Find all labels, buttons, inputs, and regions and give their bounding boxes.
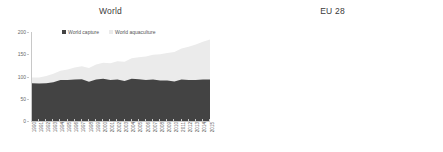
x-tick-label: 1994	[61, 122, 66, 132]
x-tick-mark	[138, 119, 139, 122]
x-tick-label: 1995	[68, 122, 73, 132]
x-tick-label: 2003	[125, 122, 130, 132]
x-tick-label: 2013	[196, 122, 201, 132]
x-tick-label: 2011	[182, 122, 187, 132]
x-tick-label: 2009	[168, 122, 173, 132]
chart-panel-eu28: EU 28 EU capture EU 28 aquaculture 02468…	[222, 0, 443, 152]
x-tick-label: 1992	[47, 122, 52, 132]
y-tick-label: 100	[18, 74, 26, 80]
x-tick-label: 2002	[118, 122, 123, 132]
x-tick-label: 2008	[161, 122, 166, 132]
x-tick-label: 1991	[40, 122, 45, 132]
x-tick-mark	[109, 119, 110, 122]
x-tick-mark	[145, 119, 146, 122]
x-tick-label: 2010	[175, 122, 180, 132]
y-tick-label: 150	[18, 51, 26, 57]
x-tick-mark	[67, 119, 68, 122]
y-tick-mark	[27, 77, 29, 78]
x-tick-mark	[181, 119, 182, 122]
x-tick-label: 2006	[147, 122, 152, 132]
chart-panel-world: World World capture World aquaculture 05…	[0, 0, 221, 152]
x-tick-label: 2004	[132, 122, 137, 132]
x-tick-label: 2005	[139, 122, 144, 132]
plot-area-world	[31, 32, 210, 122]
x-tick-mark	[95, 119, 96, 122]
y-tick-label: 0	[23, 118, 26, 124]
x-tick-label: 2014	[203, 122, 208, 132]
x-tick-label: 2007	[154, 122, 159, 132]
x-tick-label: 1997	[82, 122, 87, 132]
x-axis-world: 1990199119921993199419951996199719981999…	[31, 122, 209, 152]
x-tick-mark	[159, 119, 160, 122]
x-tick-mark	[166, 119, 167, 122]
x-tick-mark	[188, 119, 189, 122]
x-tick-mark	[173, 119, 174, 122]
x-tick-mark	[88, 119, 89, 122]
y-tick-label: 50	[20, 96, 26, 102]
x-tick-mark	[116, 119, 117, 122]
y-tick-mark	[27, 32, 29, 33]
x-tick-label: 2015	[211, 122, 216, 132]
x-tick-mark	[74, 119, 75, 122]
x-tick-mark	[52, 119, 53, 122]
x-tick-label: 1999	[97, 122, 102, 132]
chart-title-world: World	[0, 6, 221, 16]
x-tick-mark	[195, 119, 196, 122]
x-tick-mark	[38, 119, 39, 122]
x-tick-mark	[31, 119, 32, 122]
x-tick-label: 1998	[90, 122, 95, 132]
area-chart-world	[32, 32, 210, 121]
y-tick-mark	[27, 54, 29, 55]
x-tick-mark	[209, 119, 210, 122]
x-tick-label: 2000	[104, 122, 109, 132]
x-tick-mark	[152, 119, 153, 122]
x-tick-label: 1993	[54, 122, 59, 132]
x-tick-mark	[124, 119, 125, 122]
x-tick-mark	[131, 119, 132, 122]
x-tick-label: 1996	[75, 122, 80, 132]
x-tick-mark	[59, 119, 60, 122]
x-tick-mark	[45, 119, 46, 122]
y-tick-label: 200	[18, 29, 26, 35]
x-tick-mark	[81, 119, 82, 122]
y-axis-world: 050100150200	[3, 32, 29, 121]
y-tick-mark	[27, 121, 29, 122]
figure-canvas: World World capture World aquaculture 05…	[0, 0, 443, 152]
series-area-capture	[32, 79, 210, 121]
x-tick-label: 2001	[111, 122, 116, 132]
x-tick-mark	[202, 119, 203, 122]
x-tick-mark	[102, 119, 103, 122]
x-tick-label: 2012	[189, 122, 194, 132]
x-tick-label: 1990	[33, 122, 38, 132]
y-tick-mark	[27, 99, 29, 100]
chart-title-eu28: EU 28	[222, 6, 443, 16]
